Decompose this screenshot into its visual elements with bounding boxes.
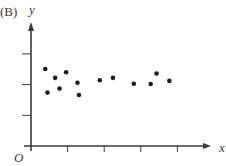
x-axis-label: x [218,140,225,155]
data-point [64,70,69,75]
panel-label: (B) [0,4,17,19]
data-point [43,67,48,72]
data-point [45,90,50,95]
data-point [154,71,159,76]
data-point [77,93,82,98]
y-axis-arrow-icon [28,22,34,31]
data-point [75,80,80,85]
data-point [167,79,172,84]
data-point [98,78,103,83]
scatter-chart: (B) y x O [0,0,226,166]
axes [22,22,211,152]
y-axis-label: y [27,2,35,17]
origin-label: O [14,150,24,165]
data-points [43,67,172,98]
x-axis-arrow-icon [203,143,211,149]
data-point [57,86,62,91]
data-point [53,76,58,81]
data-point [111,76,116,81]
data-point [132,81,137,86]
data-point [148,82,153,87]
